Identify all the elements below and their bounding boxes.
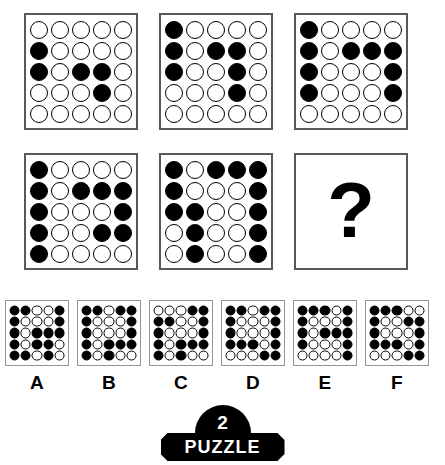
dot-r3-c5 — [249, 203, 267, 221]
dot-r4-c2 — [236, 339, 246, 349]
dot-r2-c4 — [228, 182, 246, 200]
dot-r1-c2 — [308, 305, 318, 315]
dot-r1-c1 — [297, 305, 307, 315]
dot-r4-c1 — [165, 84, 183, 102]
dot-r1-c4 — [228, 21, 246, 39]
option-a-box[interactable] — [5, 300, 69, 366]
dot-r5-c4 — [187, 351, 197, 361]
dot-r1-c5 — [114, 161, 132, 179]
dot-r1-c3 — [207, 161, 225, 179]
dot-r4-c3 — [104, 339, 114, 349]
dot-r3-c1 — [165, 63, 183, 81]
dot-r5-c4 — [93, 245, 111, 263]
dot-r2-c5 — [249, 182, 267, 200]
dot-r4-c3 — [176, 339, 186, 349]
dot-r1-c4 — [93, 21, 111, 39]
option-d[interactable]: D — [221, 300, 285, 394]
option-f[interactable]: F — [365, 300, 429, 394]
dot-r4-c2 — [308, 339, 318, 349]
dot-r1-c1 — [153, 305, 163, 315]
dot-r5-c2 — [92, 351, 102, 361]
dot-r4-c3 — [392, 339, 402, 349]
dot-grid — [29, 20, 133, 124]
dot-r3-c3 — [176, 328, 186, 338]
dot-r3-c5 — [114, 63, 132, 81]
dot-r1-c3 — [207, 21, 225, 39]
dot-r3-c1 — [297, 328, 307, 338]
dot-r5-c4 — [228, 245, 246, 263]
dot-r4-c5 — [199, 339, 209, 349]
dot-r5-c3 — [320, 351, 330, 361]
dot-r3-c4 — [228, 203, 246, 221]
dot-grid — [369, 305, 426, 362]
dot-r4-c3 — [207, 224, 225, 242]
dot-r3-c5 — [384, 63, 402, 81]
dot-r4-c1 — [9, 339, 19, 349]
option-c[interactable]: C — [149, 300, 213, 394]
dot-r1-c2 — [51, 21, 69, 39]
option-c-box[interactable] — [149, 300, 213, 366]
dot-r5-c5 — [114, 105, 132, 123]
dot-r4-c1 — [300, 84, 318, 102]
option-d-box[interactable] — [221, 300, 285, 366]
dot-r5-c1 — [165, 105, 183, 123]
dot-r2-c4 — [228, 42, 246, 60]
dot-r2-c2 — [186, 42, 204, 60]
dot-r4-c1 — [30, 224, 48, 242]
dot-r4-c2 — [186, 84, 204, 102]
dot-r4-c4 — [43, 339, 53, 349]
dot-r5-c5 — [249, 105, 267, 123]
dot-r2-c1 — [9, 316, 19, 326]
dot-r1-c3 — [32, 305, 42, 315]
dot-r4-c1 — [165, 224, 183, 242]
dot-r4-c3 — [72, 84, 90, 102]
puzzle-badge: 2 PUZZLE — [0, 405, 445, 461]
dot-r2-c3 — [342, 42, 360, 60]
dot-r4-c2 — [186, 224, 204, 242]
dot-r5-c1 — [153, 351, 163, 361]
dot-r2-c5 — [249, 42, 267, 60]
option-a-label: A — [5, 372, 69, 394]
dot-r4-c4 — [93, 224, 111, 242]
dot-r4-c2 — [20, 339, 30, 349]
option-a[interactable]: A — [5, 300, 69, 394]
dot-r5-c5 — [415, 351, 425, 361]
dot-r3-c2 — [92, 328, 102, 338]
dot-r3-c2 — [20, 328, 30, 338]
dot-r5-c3 — [248, 351, 258, 361]
dot-r5-c2 — [236, 351, 246, 361]
dot-r3-c5 — [199, 328, 209, 338]
dot-r1-c4 — [363, 21, 381, 39]
dot-r2-c1 — [165, 182, 183, 200]
dot-r4-c4 — [115, 339, 125, 349]
dot-r3-c4 — [93, 63, 111, 81]
option-b-box[interactable] — [77, 300, 141, 366]
dot-r3-c3 — [392, 328, 402, 338]
dot-r1-c4 — [115, 305, 125, 315]
dot-r5-c2 — [380, 351, 390, 361]
dot-r2-c4 — [93, 182, 111, 200]
dot-r2-c1 — [165, 42, 183, 60]
dot-r2-c1 — [300, 42, 318, 60]
dot-r2-c3 — [207, 42, 225, 60]
dot-r2-c2 — [308, 316, 318, 326]
dot-r3-c4 — [228, 63, 246, 81]
dot-r1-c5 — [249, 21, 267, 39]
question-mark-icon: ? — [327, 171, 375, 249]
dot-r4-c5 — [114, 84, 132, 102]
option-e[interactable]: E — [293, 300, 357, 394]
option-e-box[interactable] — [293, 300, 357, 366]
dot-r2-c2 — [51, 182, 69, 200]
dot-r3-c1 — [165, 203, 183, 221]
dot-r2-c1 — [369, 316, 379, 326]
dot-r2-c3 — [320, 316, 330, 326]
dot-r2-c4 — [331, 316, 341, 326]
dot-r3-c4 — [93, 203, 111, 221]
option-b[interactable]: B — [77, 300, 141, 394]
dot-r5-c4 — [259, 351, 269, 361]
dot-r2-c2 — [380, 316, 390, 326]
option-f-box[interactable] — [365, 300, 429, 366]
dot-r4-c2 — [92, 339, 102, 349]
dot-r3-c2 — [321, 63, 339, 81]
dot-r1-c3 — [320, 305, 330, 315]
